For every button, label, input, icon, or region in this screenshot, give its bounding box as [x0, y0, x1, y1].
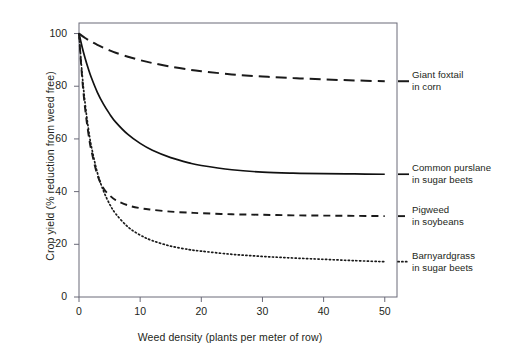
y-tick-label: 0 [41, 290, 67, 302]
legend-label-line1: Common purslane [412, 162, 491, 174]
y-axis-title: Crop yield (% reduction from weed free) [44, 16, 56, 316]
legend-entry-0: Giant foxtailin corn [412, 69, 463, 93]
legend-label-line1: Pigweed [412, 204, 464, 216]
y-axis-ticks [74, 34, 79, 297]
legend-label-line1: Giant foxtail [412, 69, 463, 81]
legend-label-line1: Barnyardgrass [412, 250, 475, 262]
axes-frame [79, 23, 397, 297]
y-tick-label: 100 [41, 27, 67, 39]
legend-label-line2: in sugar beets [412, 174, 491, 186]
legend-entry-2: Pigweedin soybeans [412, 204, 464, 228]
y-tick-label: 40 [41, 185, 67, 197]
x-tick-label: 50 [370, 305, 400, 317]
x-axis-title: Weed density (plants per meter of row) [0, 331, 460, 343]
x-tick-label: 40 [309, 305, 339, 317]
legend-label-line2: in corn [412, 81, 463, 93]
x-tick-label: 0 [64, 305, 94, 317]
weed-density-yield-chart: Weed density (plants per meter of row) C… [0, 0, 514, 358]
x-axis-ticks [79, 297, 385, 302]
legend-entry-3: Barnyardgrassin sugar beets [412, 250, 475, 274]
y-tick-label: 80 [41, 79, 67, 91]
plot-frame [79, 23, 397, 297]
legend-label-line2: in soybeans [412, 216, 464, 228]
legend-entry-1: Common purslanein sugar beets [412, 162, 491, 186]
x-tick-label: 10 [125, 305, 155, 317]
x-tick-label: 30 [247, 305, 277, 317]
legend-line-markers [398, 81, 409, 261]
y-tick-label: 60 [41, 132, 67, 144]
legend-label-line2: in sugar beets [412, 262, 475, 274]
y-tick-label: 20 [41, 237, 67, 249]
x-tick-label: 20 [186, 305, 216, 317]
